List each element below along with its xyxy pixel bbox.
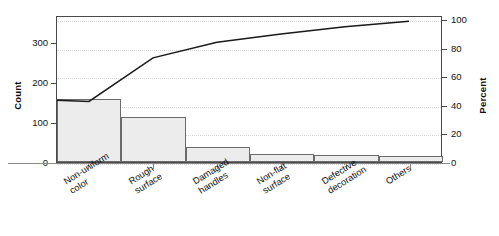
pareto-chart: Count Percent 0100200300 020406080100 No…: [0, 0, 499, 236]
tick-mark: [442, 106, 447, 107]
bar: [121, 117, 185, 162]
bar: [57, 99, 121, 162]
y-tick-label-percent: 60: [451, 71, 477, 82]
tick-mark: [51, 83, 56, 84]
y-tick-label: 200: [22, 77, 48, 88]
tick-mark: [51, 43, 56, 44]
y-tick-label: 100: [22, 117, 48, 128]
tick-mark: [442, 49, 447, 50]
gridline: [57, 21, 441, 22]
bar: [379, 156, 443, 162]
y-tick-label-percent: 0: [451, 157, 477, 168]
y-tick-label-percent: 100: [451, 14, 477, 25]
gridline: [57, 50, 441, 51]
category-label: Non-flatsurface: [255, 161, 294, 196]
category-label: Roughsurface: [127, 162, 164, 196]
y-tick-label: 300: [22, 37, 48, 48]
cumulative-line-path: [57, 21, 409, 101]
tick-mark: [51, 123, 56, 124]
y-axis-title-count: Count: [12, 66, 23, 126]
tick-mark: [442, 77, 447, 78]
tick-mark: [442, 20, 447, 21]
gridline: [57, 78, 441, 79]
category-label: Others: [384, 163, 413, 187]
y-tick-label-percent: 80: [451, 43, 477, 54]
plot-area: [56, 16, 442, 163]
y-tick-label-percent: 20: [451, 128, 477, 139]
y-tick-label-percent: 40: [451, 100, 477, 111]
y-axis-title-percent: Percent: [477, 66, 488, 126]
tick-mark: [442, 134, 447, 135]
